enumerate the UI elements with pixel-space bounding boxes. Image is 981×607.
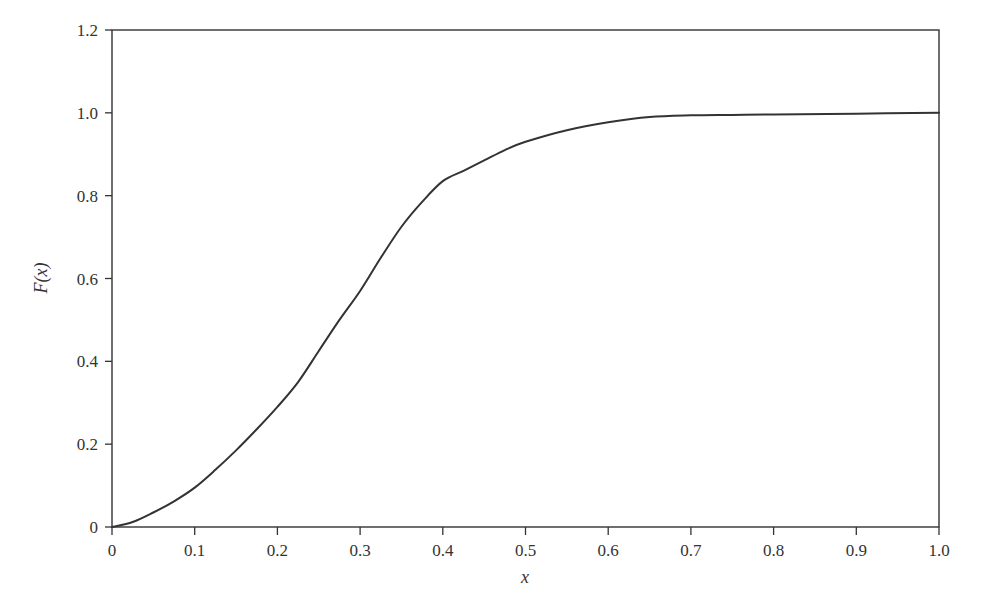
cdf-curve (112, 113, 939, 527)
cdf-chart: 00.10.20.30.40.50.60.70.80.91.000.20.40.… (0, 0, 981, 607)
y-tick-label: 1.0 (77, 104, 98, 123)
x-axis-label: x (520, 567, 529, 587)
x-tick-label: 0 (108, 541, 117, 560)
x-tick-label: 0.1 (184, 541, 205, 560)
y-axis-label: F(x) (31, 263, 52, 295)
axis-ticks (105, 30, 939, 535)
x-tick-label: 1.0 (928, 541, 949, 560)
axis-tick-labels: 00.10.20.30.40.50.60.70.80.91.000.20.40.… (77, 21, 950, 560)
y-tick-label: 0.2 (77, 435, 98, 454)
x-tick-label: 0.6 (598, 541, 619, 560)
x-tick-label: 0.5 (515, 541, 536, 560)
y-tick-label: 1.2 (77, 21, 98, 40)
y-tick-label: 0.6 (77, 270, 98, 289)
x-tick-label: 0.4 (432, 541, 454, 560)
x-tick-label: 0.3 (349, 541, 370, 560)
y-tick-label: 0.4 (77, 352, 99, 371)
x-tick-label: 0.8 (763, 541, 784, 560)
y-tick-label: 0.8 (77, 187, 98, 206)
x-tick-label: 0.2 (267, 541, 288, 560)
y-tick-label: 0 (90, 518, 99, 537)
x-tick-label: 0.9 (846, 541, 867, 560)
x-tick-label: 0.7 (680, 541, 702, 560)
y-axis-label-text: F(x) (31, 263, 52, 295)
plot-frame (112, 30, 939, 527)
